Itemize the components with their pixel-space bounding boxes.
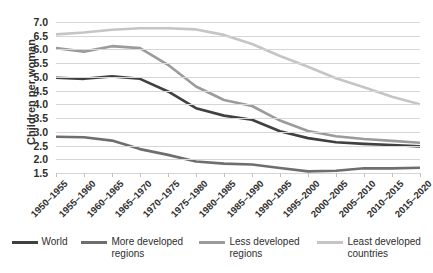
gridline xyxy=(56,118,420,119)
series-lines xyxy=(56,22,420,173)
legend-label: Less developed regions xyxy=(229,236,303,259)
legend-swatch-icon xyxy=(317,241,343,244)
fertility-line-chart: Children per woman 7.06.56.05.55.04.54.0… xyxy=(0,0,433,273)
y-axis-tick-label: 3.5 xyxy=(0,113,48,124)
legend-item[interactable]: More developed regions xyxy=(81,236,185,259)
x-axis-tick-mark xyxy=(56,173,57,177)
y-axis-tick-label: 5.0 xyxy=(0,72,48,83)
series-line xyxy=(56,137,420,172)
chart-legend: WorldMore developed regionsLess develope… xyxy=(0,236,433,270)
x-axis-tick-marks xyxy=(56,173,420,177)
y-axis-tick-label: 1.5 xyxy=(0,168,48,179)
x-axis-tick-mark xyxy=(252,173,253,177)
x-axis-tick-mark xyxy=(308,173,309,177)
gridline xyxy=(56,104,420,105)
gridline xyxy=(56,77,420,78)
x-axis-tick-mark xyxy=(224,173,225,177)
legend-label: World xyxy=(42,236,68,248)
y-axis-tick-label: 6.0 xyxy=(0,44,48,55)
legend-item[interactable]: Less developed regions xyxy=(199,236,303,259)
legend-label: Least developed countries xyxy=(347,236,421,259)
y-axis-tick-label: 4.0 xyxy=(0,99,48,110)
x-axis-tick-mark xyxy=(84,173,85,177)
y-axis-tick-label: 6.5 xyxy=(0,30,48,41)
gridline xyxy=(56,159,420,160)
legend-item[interactable]: World xyxy=(12,236,68,248)
legend-label: More developed regions xyxy=(111,236,185,259)
legend-swatch-icon xyxy=(199,241,225,244)
y-axis-tick-label: 7.0 xyxy=(0,17,48,28)
gridline xyxy=(56,146,420,147)
x-axis-tick-mark xyxy=(140,173,141,177)
y-axis-tick-label: 5.5 xyxy=(0,58,48,69)
y-axis-tick-label: 2.5 xyxy=(0,140,48,151)
x-axis-tick-mark xyxy=(420,173,421,177)
x-axis-tick-mark xyxy=(336,173,337,177)
legend-swatch-icon xyxy=(12,241,38,244)
x-axis-tick-mark xyxy=(364,173,365,177)
y-axis-tick-label: 4.5 xyxy=(0,85,48,96)
gridline xyxy=(56,49,420,50)
x-axis-tick-mark xyxy=(112,173,113,177)
x-axis-tick-mark xyxy=(280,173,281,177)
x-axis-tick-mark xyxy=(168,173,169,177)
y-axis-tick-labels: 7.06.56.05.55.04.54.03.53.02.52.01.5 xyxy=(0,22,52,173)
x-axis-tick-labels: 1950–19551955–19601960–19651965–19701970… xyxy=(56,178,420,230)
gridline xyxy=(56,132,420,133)
series-line xyxy=(56,28,420,104)
gridline xyxy=(56,63,420,64)
gridline xyxy=(56,22,420,23)
y-axis-tick-label: 3.0 xyxy=(0,127,48,138)
x-axis-tick-mark xyxy=(392,173,393,177)
legend-item[interactable]: Least developed countries xyxy=(317,236,421,259)
series-line xyxy=(56,46,420,143)
gridline xyxy=(56,91,420,92)
legend-swatch-icon xyxy=(81,241,107,244)
x-axis-tick-mark xyxy=(196,173,197,177)
y-axis-tick-label: 2.0 xyxy=(0,154,48,165)
gridline xyxy=(56,36,420,37)
plot-area xyxy=(56,22,420,173)
